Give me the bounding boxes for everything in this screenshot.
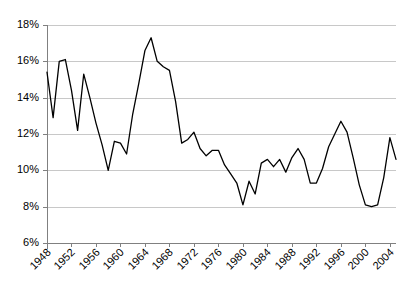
x-tick-label: 1964	[125, 246, 151, 272]
x-tick-label: 1980	[223, 246, 249, 272]
x-tick-label: 1976	[198, 246, 224, 272]
y-axis	[43, 25, 48, 249]
x-tick-label: 1956	[76, 246, 102, 272]
y-tick-label: 6%	[23, 236, 39, 248]
y-axis-tick-labels: 6%8%10%12%14%16%18%	[17, 18, 39, 248]
y-tick-label: 8%	[23, 200, 39, 212]
x-tick-label: 1960	[100, 246, 126, 272]
data-series	[47, 38, 396, 207]
y-tick-label: 18%	[17, 18, 39, 30]
x-tick-label: 2000	[345, 246, 371, 272]
y-tick-label: 16%	[17, 54, 39, 66]
x-axis	[47, 243, 396, 247]
x-tick-label: 1948	[27, 246, 53, 272]
chart-canvas: 6%8%10%12%14%16%18% 19481952195619601964…	[0, 0, 415, 296]
x-tick-label: 1992	[296, 246, 322, 272]
x-tick-label: 1988	[272, 246, 298, 272]
y-tick-label: 14%	[17, 91, 39, 103]
series-line-series-1	[47, 38, 396, 207]
x-tick-label: 1952	[51, 246, 77, 272]
x-tick-label: 1968	[149, 246, 175, 272]
x-tick-label: 1984	[247, 246, 273, 272]
x-tick-label: 1996	[321, 246, 347, 272]
y-tick-label: 10%	[17, 163, 39, 175]
line-chart: 6%8%10%12%14%16%18% 19481952195619601964…	[0, 0, 415, 296]
x-axis-tick-labels: 1948195219561960196419681972197619801984…	[27, 246, 396, 272]
y-tick-label: 12%	[17, 127, 39, 139]
x-tick-label: 1972	[174, 246, 200, 272]
x-tick-label: 2004	[370, 246, 396, 272]
